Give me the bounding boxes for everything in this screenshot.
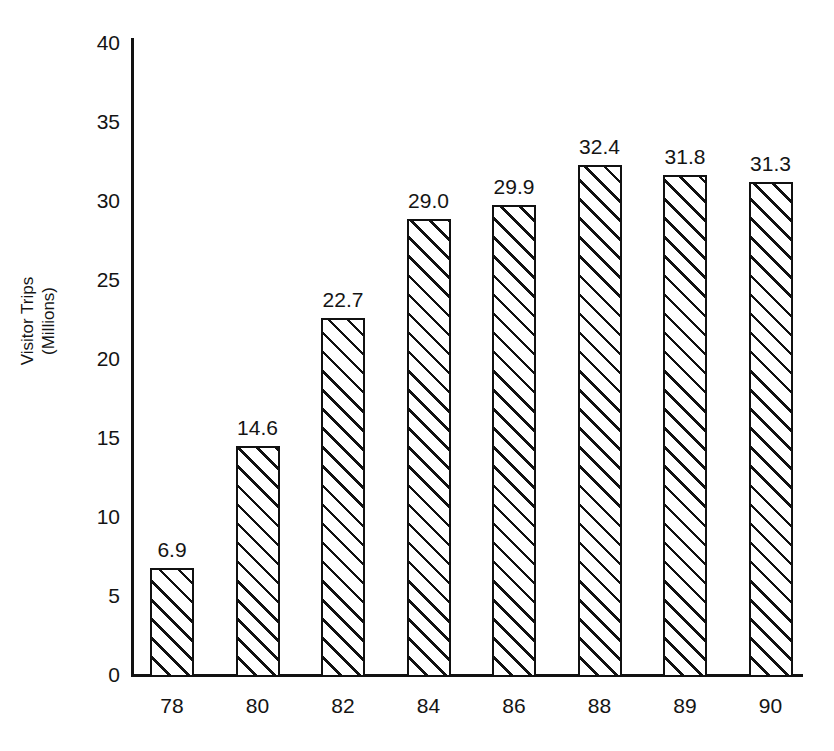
bar-value-label: 6.9 (157, 539, 186, 560)
bar-group: 29.084 (407, 0, 451, 751)
x-axis-tick-label: 89 (673, 694, 696, 717)
bar-group: 14.680 (236, 0, 280, 751)
bar-value-label: 32.4 (579, 136, 620, 157)
bar[interactable] (663, 175, 707, 677)
bar[interactable] (236, 446, 280, 677)
plot-area: 0510152025303540 Visitor Trips (Millions… (0, 0, 834, 751)
bar-group: 22.782 (321, 0, 365, 751)
bar[interactable] (407, 219, 451, 677)
x-axis-tick-label: 80 (246, 694, 269, 717)
bar-group: 32.488 (578, 0, 622, 751)
bar-value-label: 31.3 (750, 153, 791, 174)
x-axis-tick-label: 84 (417, 694, 440, 717)
bar-group: 29.986 (492, 0, 536, 751)
x-axis-tick-label: 86 (502, 694, 525, 717)
x-axis-tick-label: 78 (160, 694, 183, 717)
bar-value-label: 29.9 (494, 176, 535, 197)
bar-value-label: 22.7 (323, 289, 364, 310)
x-axis-tick-label: 90 (759, 694, 782, 717)
x-axis-tick-label: 88 (588, 694, 611, 717)
bars-layer: 6.97814.68022.78229.08429.98632.48831.88… (0, 0, 834, 751)
bar-group: 6.978 (150, 0, 194, 751)
bar[interactable] (150, 568, 194, 677)
bar[interactable] (578, 165, 622, 677)
bar[interactable] (749, 182, 793, 677)
bar-value-label: 31.8 (665, 146, 706, 167)
x-axis-tick-label: 82 (331, 694, 354, 717)
bar-group: 31.889 (663, 0, 707, 751)
bar[interactable] (321, 318, 365, 677)
bar-group: 31.390 (749, 0, 793, 751)
bar-value-label: 14.6 (237, 417, 278, 438)
bar-value-label: 29.0 (408, 190, 449, 211)
bar[interactable] (492, 205, 536, 677)
